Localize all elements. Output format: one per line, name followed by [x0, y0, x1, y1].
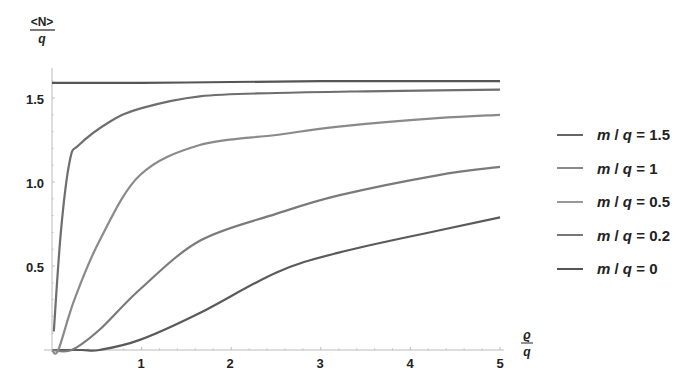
legend-label: m / q = 1 — [597, 160, 657, 177]
y-axis-label-numerator: <N> — [31, 15, 54, 29]
x-axis-label-denominator: q — [523, 345, 531, 359]
y-tick-label: 0.5 — [26, 260, 44, 275]
y-axis-label-denominator: q — [38, 32, 46, 46]
legend-item: m / q = 0.5 — [557, 185, 670, 219]
y-tick-label: 1.5 — [26, 92, 44, 107]
legend-swatch — [557, 201, 583, 203]
series-line — [54, 90, 500, 332]
series-line — [52, 217, 500, 350]
x-tick-label: 5 — [496, 356, 503, 371]
series-line — [52, 115, 500, 354]
series-lines — [52, 81, 500, 354]
legend: m / q = 1.5 m / q = 1 m / q = 0.5 m / q … — [557, 118, 670, 286]
legend-item: m / q = 1 — [557, 152, 670, 186]
series-line — [52, 81, 500, 83]
x-tick-label: 2 — [226, 356, 233, 371]
x-axis-label: ϱ q — [521, 328, 533, 359]
legend-label: m / q = 0.2 — [597, 227, 670, 244]
legend-label: m / q = 1.5 — [597, 126, 670, 143]
x-tick-label: 3 — [316, 356, 323, 371]
legend-swatch — [557, 134, 583, 136]
legend-item: m / q = 0.2 — [557, 219, 670, 253]
legend-swatch — [557, 167, 583, 169]
x-axis-label-numerator: ϱ — [523, 328, 531, 342]
x-tick-label: 1 — [137, 356, 144, 371]
series-line — [52, 167, 500, 352]
legend-swatch — [557, 234, 583, 236]
legend-item: m / q = 1.5 — [557, 118, 670, 152]
legend-swatch — [557, 268, 583, 270]
legend-item: m / q = 0 — [557, 252, 670, 286]
x-tick-label: 4 — [406, 356, 414, 371]
legend-label: m / q = 0 — [597, 260, 657, 277]
legend-label: m / q = 0.5 — [597, 193, 670, 210]
y-axis-label: <N> q — [30, 15, 55, 46]
y-tick-label: 1.0 — [26, 176, 44, 191]
